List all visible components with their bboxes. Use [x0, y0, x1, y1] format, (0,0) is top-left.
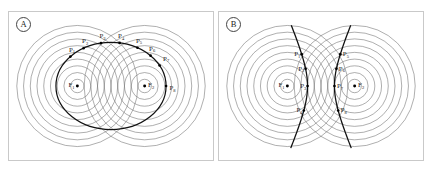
point-label-8: P8: [170, 84, 177, 93]
construction-point-2: [304, 68, 307, 71]
point-label-2: P2: [82, 37, 89, 46]
point-label-4-text: P4: [296, 106, 303, 115]
construction-point-6: [149, 54, 152, 57]
point-label-1-sub: 1: [298, 54, 300, 59]
construction-point-7: [158, 64, 161, 67]
point-label-1: P1: [69, 46, 75, 55]
point-label-8-text: P8: [170, 84, 177, 93]
point-label-7-sub: 7: [341, 86, 344, 91]
point-label-2-text: P2: [82, 37, 89, 46]
point-label-5-text: P5: [343, 50, 350, 59]
point-label-1-text: P1: [294, 50, 300, 59]
point-label-5: P5: [343, 50, 350, 59]
point-label-5-sub: 5: [347, 54, 350, 59]
panel-a-canvas: F1F2P1P2P3P4P5P6P7P8: [9, 12, 213, 160]
point-label-3-text: P3: [100, 32, 107, 41]
circle-family: [17, 25, 205, 146]
point-label-5: P5: [136, 37, 143, 46]
panel-a: A F1F2P1P2P3P4P5P6P7P8: [8, 11, 214, 161]
construction-point-3: [100, 42, 103, 45]
focus-1-label: F1: [68, 81, 74, 90]
construction-point-5: [339, 53, 342, 56]
panel-b-tag: B: [226, 17, 241, 32]
point-label-7-text: P7: [337, 82, 344, 91]
focus-1-label-text: F1: [68, 81, 74, 90]
point-label-3-sub: 3: [103, 36, 106, 41]
focus-1-point: [286, 85, 289, 88]
point-label-6: P6: [149, 45, 156, 54]
construction-point-3: [306, 85, 309, 88]
point-label-7: P7: [163, 55, 170, 64]
point-label-5-text: P5: [136, 37, 143, 46]
focus-1-label: F1: [278, 81, 284, 90]
point-label-8-text: P8: [341, 106, 348, 115]
conic-sections-figure: A F1F2P1P2P3P4P5P6P7P8 B F1F2P1P2P3P4P5P…: [0, 0, 432, 172]
point-label-6-sub: 6: [153, 48, 156, 53]
panel-b: B F1F2P1P2P3P4P5P6P7P8: [218, 11, 424, 161]
construction-point-2: [82, 47, 85, 50]
point-label-7-text: P7: [163, 55, 170, 64]
point-label-4: P4: [296, 106, 303, 115]
construction-point-7: [333, 85, 336, 88]
point-label-5-sub: 5: [140, 40, 143, 45]
point-label-1: P1: [294, 50, 300, 59]
focus-2-label-sub: 2: [152, 85, 155, 90]
focus-2-label-text: F2: [148, 81, 155, 90]
construction-point-4: [118, 42, 121, 45]
point-label-6-text: P6: [149, 45, 156, 54]
focus-2-point: [143, 85, 146, 88]
point-label-2-sub: 2: [86, 41, 89, 46]
point-label-7-sub: 7: [167, 58, 170, 63]
focus-1-label-sub: 1: [282, 85, 284, 90]
construction-point-1: [300, 53, 303, 56]
panel-a-tag: A: [16, 17, 31, 32]
construction-point-8: [165, 85, 168, 88]
point-label-1-sub: 1: [73, 49, 75, 54]
focus-2-label-text: F2: [358, 81, 365, 90]
focus-1-label-text: F1: [278, 81, 284, 90]
point-label-4-text: P4: [118, 32, 125, 41]
focus-2-label: F2: [148, 81, 155, 90]
point-label-3: P3: [100, 32, 107, 41]
focus-2-point: [353, 85, 356, 88]
construction-point-5: [136, 46, 139, 49]
construction-point-8: [337, 109, 340, 112]
point-label-2-text: P2: [298, 65, 305, 74]
panel-b-canvas: F1F2P1P2P3P4P5P6P7P8: [219, 12, 423, 160]
point-label-7: P7: [337, 82, 344, 91]
point-label-8: P8: [341, 106, 348, 115]
focus-2-label-sub: 2: [362, 85, 365, 90]
point-label-1-text: P1: [69, 46, 75, 55]
point-label-8-sub: 8: [344, 110, 347, 115]
construction-point-1: [69, 55, 72, 58]
focus-1-point: [76, 85, 79, 88]
construction-point-6: [335, 68, 338, 71]
point-label-4: P4: [118, 32, 125, 41]
circle-family: [227, 25, 415, 146]
focus-1-label-sub: 1: [72, 85, 74, 90]
construction-point-4: [302, 109, 305, 112]
point-label-8-sub: 8: [173, 88, 176, 93]
point-label-2: P2: [298, 65, 305, 74]
focus-2-label: F2: [358, 81, 365, 90]
